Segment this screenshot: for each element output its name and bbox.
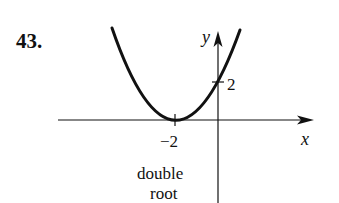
y-axis-label: y xyxy=(200,27,210,47)
y-tick-label: 2 xyxy=(227,75,236,94)
annotation-double: double xyxy=(137,164,183,183)
x-axis-label: x xyxy=(300,129,309,149)
x-tick-label: −2 xyxy=(160,132,178,151)
parabola-graph: y x 2 −2 double root xyxy=(0,0,339,203)
annotation-root: root xyxy=(150,184,178,203)
